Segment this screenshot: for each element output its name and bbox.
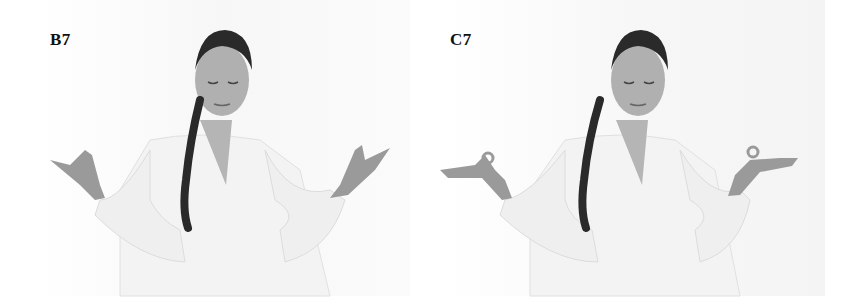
figure-panel-c7: C7 bbox=[420, 0, 830, 306]
panel-label: C7 bbox=[450, 30, 472, 50]
panel-label: B7 bbox=[50, 30, 71, 50]
figure-panel-b7: B7 bbox=[0, 0, 410, 306]
person-photo-c7 bbox=[420, 0, 830, 306]
